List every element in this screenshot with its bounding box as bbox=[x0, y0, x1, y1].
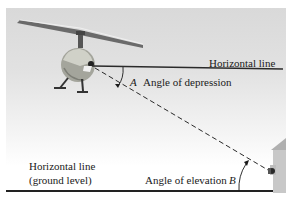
angle-b-letter: B bbox=[229, 174, 236, 186]
angle-a-arrowhead bbox=[115, 84, 120, 88]
angle-a-letter: A bbox=[130, 76, 137, 88]
horizontal-line-label: Horizontal line bbox=[209, 57, 275, 69]
angle-a-arc bbox=[118, 67, 123, 86]
ground-line-label-2: (ground level) bbox=[29, 174, 92, 186]
helicopter-icon bbox=[17, 20, 143, 92]
angle-b-arc bbox=[239, 164, 246, 191]
building-icon bbox=[268, 138, 286, 193]
angle-depression-label: Angle of depression bbox=[143, 76, 232, 88]
angle-b-arrowhead bbox=[244, 160, 249, 166]
angle-elevation-label: Angle of elevation bbox=[145, 174, 227, 186]
ground-line-label-1: Horizontal line bbox=[29, 160, 95, 172]
